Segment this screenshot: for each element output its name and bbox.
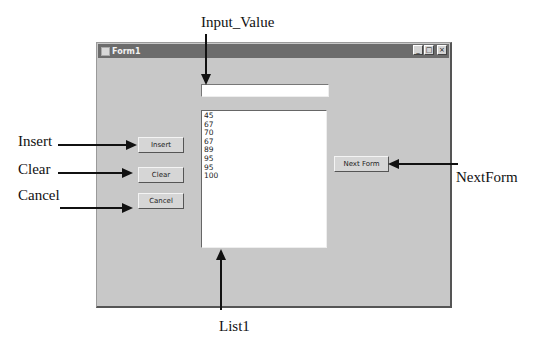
app-icon (101, 47, 110, 56)
title-bar[interactable]: Form1 _ □ × (98, 44, 449, 58)
annotation-cancel: Cancel (18, 187, 60, 204)
arrow-up-icon (216, 249, 226, 260)
list1-listbox[interactable]: 45 67 70 67 89 95 95 100 (201, 110, 327, 248)
list-item[interactable]: 45 (204, 112, 324, 121)
next-form-button[interactable]: Next Form (334, 156, 389, 172)
arrow-line (60, 207, 124, 209)
list-item[interactable]: 67 (204, 121, 324, 130)
list-item[interactable]: 95 (204, 164, 324, 173)
list-item[interactable]: 67 (204, 138, 324, 147)
annotation-clear: Clear (18, 161, 50, 178)
window-controls: _ □ × (413, 45, 447, 55)
arrow-line (58, 172, 124, 174)
arrow-down-icon (201, 74, 211, 85)
list-item[interactable]: 100 (204, 172, 324, 181)
annotation-insert: Insert (18, 133, 52, 150)
insert-button[interactable]: Insert (138, 137, 184, 153)
form-window: Form1 _ □ × 45 67 70 67 89 95 95 100 Ins… (96, 42, 452, 308)
arrow-right-icon (122, 168, 133, 178)
arrow-right-icon (126, 140, 137, 150)
annotation-next-form: NextForm (456, 169, 518, 186)
arrow-line (398, 163, 458, 165)
list-item[interactable]: 95 (204, 155, 324, 164)
arrow-left-icon (388, 159, 399, 169)
clear-button[interactable]: Clear (138, 167, 184, 183)
list-item[interactable]: 89 (204, 146, 324, 155)
input-value-textbox[interactable] (201, 84, 329, 97)
maximize-button[interactable]: □ (424, 45, 434, 55)
arrow-line (58, 144, 128, 146)
arrow-line (205, 34, 207, 76)
cancel-button[interactable]: Cancel (138, 193, 184, 209)
window-title: Form1 (112, 47, 140, 56)
minimize-button[interactable]: _ (413, 45, 423, 55)
arrow-right-icon (122, 203, 133, 213)
annotation-input-value: Input_Value (201, 14, 274, 31)
close-button[interactable]: × (437, 45, 447, 55)
arrow-line (220, 260, 222, 310)
annotation-list1: List1 (219, 318, 250, 335)
list-item[interactable]: 70 (204, 129, 324, 138)
